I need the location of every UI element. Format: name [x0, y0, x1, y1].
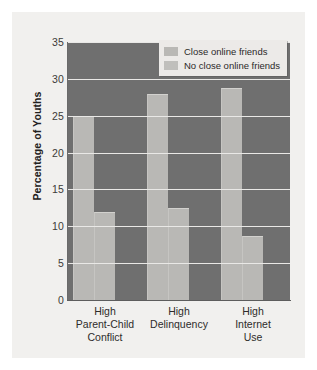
x-category-line: Use: [216, 331, 290, 344]
legend-label-2: No close online friends: [184, 60, 280, 71]
x-category-line: High: [142, 305, 216, 318]
y-tick-30: 30: [38, 73, 64, 85]
gridline-25: [68, 116, 290, 117]
x-category-line: Conflict: [68, 331, 142, 344]
x-axis-line: [67, 300, 291, 301]
gridline-20: [68, 153, 290, 154]
legend-item-2: No close online friends: [164, 58, 280, 72]
legend-item-1: Close online friends: [164, 44, 280, 58]
y-tick-15: 15: [38, 183, 64, 195]
bar-group3-series1: [221, 88, 242, 300]
bar-group2-series2: [168, 208, 189, 300]
bar-group1-series2: [94, 212, 115, 300]
bar-group1-series1: [73, 116, 94, 300]
y-tick-20: 20: [38, 147, 64, 159]
x-category-line: Parent-Child: [68, 318, 142, 331]
gridline-15: [68, 189, 290, 190]
x-category-label-3: HighInternetUse: [216, 305, 290, 344]
bar-group2-series1: [147, 94, 168, 300]
legend-swatch-icon-1: [164, 47, 178, 56]
y-axis-tick-labels: 35 30 25 20 15 10 5 0: [34, 42, 64, 300]
gridline-30: [68, 79, 290, 80]
gridline-5: [68, 263, 290, 264]
x-category-line: High: [68, 305, 142, 318]
gridline-10: [68, 226, 290, 227]
x-category-label-1: HighParent-ChildConflict: [68, 305, 142, 344]
x-axis-category-labels: HighParent-ChildConflictHighDelinquencyH…: [68, 305, 290, 344]
y-tick-25: 25: [38, 110, 64, 122]
plot-area: [68, 42, 290, 300]
y-tick-0: 0: [38, 294, 64, 306]
legend-swatch-icon-2: [164, 61, 178, 70]
x-category-line: High: [216, 305, 290, 318]
legend-label-1: Close online friends: [184, 46, 267, 57]
x-category-line: Internet: [216, 318, 290, 331]
chart-figure: Percentage of Youths 35 30 25 20 15 10 5…: [12, 12, 305, 358]
y-tick-10: 10: [38, 220, 64, 232]
y-tick-35: 35: [38, 36, 64, 48]
bar-group3-series2: [242, 236, 263, 300]
chart-legend: Close online friendsNo close online frie…: [159, 40, 287, 76]
x-category-label-2: HighDelinquency: [142, 305, 216, 344]
x-category-line: Delinquency: [142, 318, 216, 331]
y-tick-5: 5: [38, 257, 64, 269]
